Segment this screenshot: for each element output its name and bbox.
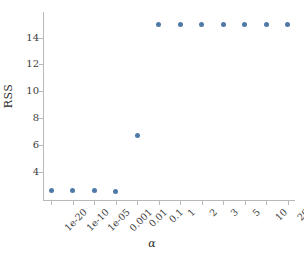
x-tick-mark: [73, 201, 74, 205]
x-tick-mark: [180, 201, 181, 205]
x-tick-label: 1: [186, 207, 197, 218]
x-tick-label: 2: [207, 207, 218, 218]
data-point: [178, 22, 183, 27]
y-tick-label-text: 6: [11, 140, 39, 150]
x-axis-label: α: [0, 237, 304, 250]
data-point: [199, 22, 204, 27]
y-tick-mark: [39, 38, 43, 39]
data-point: [156, 22, 161, 27]
x-axis-line: [43, 200, 295, 201]
y-tick-label: 12: [5, 59, 39, 69]
y-tick-label-text: 4: [11, 167, 39, 177]
y-tick-mark: [39, 118, 43, 119]
data-point: [221, 22, 226, 27]
x-tick-mark: [223, 201, 224, 205]
data-point: [49, 188, 54, 193]
data-point: [135, 133, 140, 138]
y-tick-mark: [39, 172, 43, 173]
x-tick-label: 5: [250, 207, 261, 218]
x-tick-label: 1e-10: [84, 207, 110, 233]
x-tick-mark: [116, 201, 117, 205]
x-tick-mark: [202, 201, 203, 205]
x-tick-mark: [245, 201, 246, 205]
x-tick-label: 3: [229, 207, 240, 218]
data-point: [113, 189, 118, 194]
y-tick-mark: [39, 145, 43, 146]
x-tick-mark: [266, 201, 267, 205]
y-tick-mark: [39, 91, 43, 92]
y-tick-label-text: 10: [11, 86, 39, 96]
x-tick-label: 0.1: [167, 207, 185, 225]
y-tick-label: 8: [5, 113, 39, 123]
scatter-chart-figure: RSS 468101214 1e-201e-101e-050.0010.010.…: [0, 0, 304, 259]
y-tick-label-text: 8: [11, 113, 39, 123]
y-tick-label: 6: [5, 140, 39, 150]
y-tick-label: 4: [5, 167, 39, 177]
y-tick-label: 10: [5, 86, 39, 96]
plot-area: [44, 12, 294, 200]
x-tick-label: 1e-20: [63, 207, 89, 233]
data-point: [242, 22, 247, 27]
x-tick-mark: [159, 201, 160, 205]
x-tick-label: 10: [274, 207, 290, 223]
y-tick-label: 14: [5, 33, 39, 43]
x-tick-label: 20: [295, 207, 304, 223]
x-tick-mark: [137, 201, 138, 205]
data-point: [285, 22, 290, 27]
data-point: [70, 188, 75, 193]
y-tick-mark: [39, 64, 43, 65]
y-tick-label-text: 12: [11, 59, 39, 69]
data-point: [92, 188, 97, 193]
x-tick-mark: [288, 201, 289, 205]
y-tick-label-text: 14: [11, 33, 39, 43]
x-tick-mark: [51, 201, 52, 205]
data-point: [264, 22, 269, 27]
x-tick-mark: [94, 201, 95, 205]
x-tick-label: 1e-05: [106, 207, 132, 233]
